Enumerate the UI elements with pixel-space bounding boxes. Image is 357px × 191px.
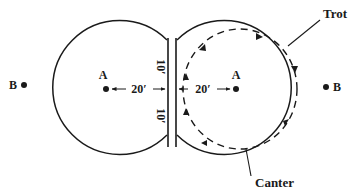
trot-label: Trot (323, 6, 348, 21)
left-outside-point (21, 82, 27, 88)
right-radius-label: 20′ (195, 82, 210, 96)
canter-label: Canter (255, 175, 294, 190)
left-radius-label: 20′ (131, 82, 146, 96)
arrowhead-right-upper (291, 66, 298, 73)
upper-wall-label: 10′ (154, 59, 168, 74)
diagram-canvas: A B 20′ 10′ 10′ A B 20′ (0, 0, 357, 191)
left-circle-group: A B 20′ 10′ 10′ (9, 20, 168, 154)
arrowhead-bottom (201, 140, 207, 146)
right-center-point (233, 86, 239, 92)
arrowhead-top-right (256, 33, 263, 40)
trot-leader-line (288, 20, 320, 46)
arrowhead-left-lower (183, 108, 189, 115)
canter-leader-line (246, 149, 251, 176)
left-outside-label: B (9, 78, 17, 92)
left-center-label: A (99, 68, 108, 82)
right-outside-label: B (333, 80, 341, 94)
right-center-label: A (232, 68, 241, 82)
left-center-point (103, 86, 109, 92)
lower-wall-label: 10′ (154, 108, 168, 123)
right-circle-group: A B 20′ (177, 20, 341, 154)
left-circle (53, 20, 167, 154)
right-outside-point (323, 84, 329, 90)
arrowhead-top-left (199, 44, 206, 51)
